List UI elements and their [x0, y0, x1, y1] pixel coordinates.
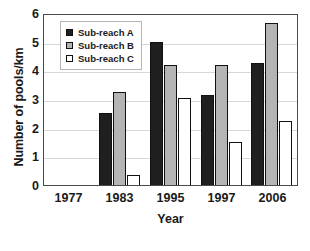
y-axis-tick-label: 4 [22, 65, 39, 78]
legend-swatch-icon [66, 29, 73, 36]
bar-1983-sub-reach-a[interactable] [99, 113, 112, 185]
x-axis-tick-label-1997: 1997 [196, 192, 247, 205]
legend-item-sub-reach-c[interactable]: Sub-reach C [66, 52, 134, 65]
bar-chart-figure: Number of pools/km 6543210 Sub-reach ASu… [0, 0, 310, 251]
legend-swatch-icon [66, 55, 73, 62]
bar-1997-sub-reach-a[interactable] [201, 95, 214, 185]
bar-1997-sub-reach-b[interactable] [215, 65, 228, 185]
x-axis-title: Year [43, 212, 298, 226]
chart-legend: Sub-reach ASub-reach BSub-reach C [60, 21, 142, 70]
bar-2006-sub-reach-c[interactable] [279, 121, 292, 186]
legend-item-label: Sub-reach A [78, 28, 134, 38]
caption-sliver [6, 243, 206, 251]
legend-item-sub-reach-b[interactable]: Sub-reach B [66, 39, 134, 52]
bar-1983-sub-reach-c[interactable] [127, 175, 140, 185]
y-axis-tick-label: 5 [22, 36, 39, 49]
bar-1983-sub-reach-b[interactable] [113, 92, 126, 185]
y-axis-tick-label: 1 [22, 151, 39, 164]
bar-group-1995 [145, 15, 196, 185]
x-axis-tick-labels: 19771983199519972006 [43, 192, 298, 205]
x-axis-tick-label-1995: 1995 [145, 192, 196, 205]
bar-1997-sub-reach-c[interactable] [229, 142, 242, 185]
bar-2006-sub-reach-a[interactable] [251, 63, 264, 185]
legend-item-sub-reach-a[interactable]: Sub-reach A [66, 26, 134, 39]
legend-swatch-icon [66, 42, 73, 49]
y-axis-tick-label: 3 [22, 94, 39, 107]
bar-group-1997 [196, 15, 247, 185]
bar-1995-sub-reach-a[interactable] [150, 42, 163, 185]
legend-item-label: Sub-reach B [78, 41, 134, 51]
bar-1995-sub-reach-c[interactable] [178, 98, 191, 185]
bar-2006-sub-reach-b[interactable] [265, 23, 278, 185]
plot-area: Sub-reach ASub-reach BSub-reach C [43, 14, 298, 186]
y-axis-tick-label: 0 [22, 180, 39, 193]
bar-group-2006 [246, 15, 297, 185]
y-axis-tick-labels: 6543210 [22, 14, 39, 186]
bar-1995-sub-reach-b[interactable] [164, 65, 177, 185]
x-axis-tick-label-2006: 2006 [247, 192, 298, 205]
x-axis-tick-label-1977: 1977 [43, 192, 94, 205]
x-axis-tick-label-1983: 1983 [94, 192, 145, 205]
legend-item-label: Sub-reach C [78, 54, 134, 64]
y-axis-tick-label: 2 [22, 122, 39, 135]
y-axis-tick-label: 6 [22, 8, 39, 21]
